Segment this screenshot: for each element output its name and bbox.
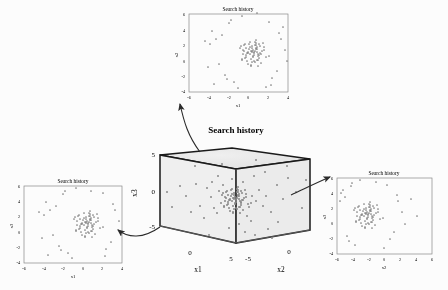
panel-top-xtick-2: -2	[227, 95, 231, 100]
cube-ztick-0: 0	[152, 188, 156, 196]
panel-right-ytick-0: 6	[331, 176, 333, 181]
cube-ztick-neg5: -5	[149, 223, 155, 231]
panel-top-xtick-0: -6	[187, 95, 191, 100]
cube-zaxis-label: x3	[130, 189, 139, 197]
cube-x2tick-neg5: -5	[245, 255, 251, 263]
panel-top-yaxis-label: x2	[174, 52, 179, 57]
panel-right-title: Search history	[369, 170, 400, 176]
figure-canvas: Search history -6 -4 -2 0 2 4 6 4 2 0 -2…	[0, 0, 448, 290]
panel-right-xaxis-label: x2	[382, 265, 387, 270]
panel-right-xtick-6: 6	[431, 257, 433, 262]
panel-left-ytick-3: 0	[18, 230, 20, 235]
cube-x1tick-0: 0	[188, 249, 192, 257]
cube-ztick-5: 5	[152, 151, 156, 159]
panel-right-yaxis-label: x3	[322, 214, 327, 219]
panel-right-xtick-3: 0	[383, 257, 385, 262]
panel-left-frame	[24, 186, 122, 263]
panel-top-ytick-0: 6	[183, 12, 185, 17]
cube-x1tick-5: 5	[229, 255, 233, 263]
panel-top-xtick-3: 0	[247, 95, 249, 100]
panel-right-xtick-4: 2	[399, 257, 401, 262]
panel-left-xaxis-label: x1	[71, 274, 76, 279]
panel-left-xtick-3: 0	[82, 266, 84, 271]
panel-right-ytick-3: 0	[331, 221, 333, 226]
cube-xaxis-label: x1	[194, 265, 202, 274]
panel-left-xtick-4: 2	[101, 266, 103, 271]
cube-right-face	[236, 159, 310, 243]
panel-top-title: Search history	[223, 6, 254, 12]
main-title: Search history	[208, 125, 264, 135]
panel-right-xtick-2: -2	[367, 257, 371, 262]
panel-left-title: Search history	[58, 178, 89, 184]
panel-top-ytick-3: 0	[183, 59, 185, 64]
panel-right-ytick-2: 2	[331, 206, 333, 211]
cube-yaxis-label: x2	[277, 265, 285, 274]
panel-left-ytick-2: 2	[18, 214, 20, 219]
panel-left-xtick-2: -2	[61, 266, 65, 271]
panel-top-frame	[189, 14, 288, 92]
cube-x2tick-0: 0	[287, 248, 291, 256]
panel-top-xtick-4: 2	[267, 95, 269, 100]
panel-top-xaxis-label: x1	[236, 103, 241, 108]
panel-top-ytick-4: -2	[182, 74, 186, 79]
panel-left-xtick-0: -6	[22, 266, 26, 271]
panel-left-yaxis-label: x3	[9, 223, 14, 228]
panel-top-ytick-2: 2	[183, 43, 185, 48]
panel-right-xtick-0: -6	[335, 257, 339, 262]
panel-left-ytick-0: 6	[18, 184, 20, 189]
panel-right-ytick-4: -2	[330, 236, 334, 241]
panel-left-ytick-4: -2	[17, 245, 21, 250]
